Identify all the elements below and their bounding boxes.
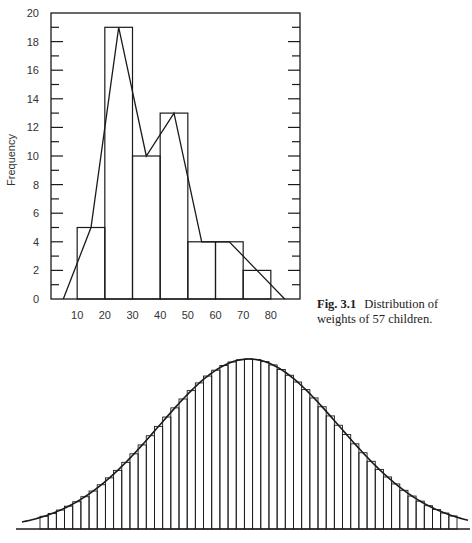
histogram-bar — [343, 435, 351, 529]
histogram-bar — [138, 445, 146, 529]
histogram-bar — [179, 399, 187, 529]
histogram-bar — [195, 383, 203, 529]
histogram-bar — [160, 113, 188, 299]
histogram-bar — [375, 469, 383, 529]
y-tick-label: 12 — [27, 121, 39, 133]
histogram-bar — [73, 502, 81, 529]
histogram-bar — [220, 365, 228, 529]
histogram-bar — [204, 376, 212, 529]
histogram-bar — [318, 407, 326, 529]
y-tick-label: 4 — [33, 236, 39, 248]
y-axis-ticks: 02468101214161820 — [27, 7, 300, 305]
caption-text-line2: weights of 57 children. — [317, 312, 432, 326]
y-axis-label: Frequency — [5, 134, 17, 186]
histogram-bar — [277, 370, 285, 529]
histogram-bar — [171, 408, 179, 529]
histogram-bar — [359, 453, 367, 529]
histogram-bar — [48, 513, 56, 529]
plot-border — [51, 13, 300, 299]
histogram-bar — [154, 426, 162, 529]
histogram-bar — [188, 242, 216, 299]
y-tick-label: 8 — [33, 179, 39, 191]
histogram-bar — [187, 391, 195, 529]
x-tick-label: 50 — [182, 309, 194, 321]
histogram-bar — [105, 478, 113, 529]
histogram-bar — [243, 270, 271, 299]
histogram-bar — [122, 462, 130, 529]
histogram-bar — [334, 425, 342, 529]
normal-curve-histogram-chart — [0, 330, 472, 543]
y-tick-label: 14 — [27, 93, 39, 105]
x-tick-label: 40 — [154, 309, 166, 321]
histogram-bar — [163, 417, 171, 529]
histogram-bar — [392, 484, 400, 529]
histogram-bar — [216, 242, 244, 299]
x-tick-label: 70 — [237, 309, 249, 321]
y-tick-label: 16 — [27, 64, 39, 76]
histogram-bar — [65, 506, 73, 529]
histogram-bar — [261, 362, 269, 529]
histogram-bar — [253, 360, 261, 529]
x-tick-label: 20 — [99, 309, 111, 321]
x-tick-label: 80 — [265, 309, 277, 321]
histogram-bar — [114, 470, 122, 529]
histogram-bar — [326, 416, 334, 529]
histogram-bar — [244, 359, 252, 529]
histogram-bar — [130, 454, 138, 529]
y-tick-label: 10 — [27, 150, 39, 162]
histogram-bar — [81, 497, 89, 529]
histogram-bar — [89, 491, 97, 529]
histogram-weights-chart: 02468101214161820 1020304050607080 Frequ… — [0, 0, 472, 330]
histogram-bar — [105, 27, 133, 299]
histogram-bar — [146, 436, 154, 529]
figure-caption: Fig. 3.1Distribution of weights of 57 ch… — [317, 297, 467, 327]
y-tick-label: 0 — [33, 293, 39, 305]
narrow-histogram-bars — [40, 359, 457, 529]
figure-number: Fig. 3.1 — [317, 297, 356, 311]
frequency-polygon-line — [63, 27, 284, 299]
histogram-bar — [424, 506, 432, 529]
histogram-bar — [302, 390, 310, 529]
y-tick-label: 6 — [33, 207, 39, 219]
histogram-bar — [441, 513, 449, 529]
histogram-bar — [285, 375, 293, 529]
histogram-bar — [212, 370, 220, 529]
histogram-bar — [133, 156, 161, 299]
histogram-bar — [40, 516, 48, 529]
x-tick-label: 10 — [71, 309, 83, 321]
x-tick-label: 30 — [126, 309, 138, 321]
histogram-bar — [449, 516, 457, 529]
histogram-bar — [400, 490, 408, 529]
histogram-bar — [236, 360, 244, 529]
y-tick-label: 18 — [27, 36, 39, 48]
histogram-bar — [310, 398, 318, 529]
histogram-bar — [383, 477, 391, 529]
x-axis-tick-labels: 1020304050607080 — [71, 309, 277, 321]
histogram-bar — [97, 485, 105, 529]
histogram-bar — [228, 362, 236, 529]
x-tick-label: 60 — [209, 309, 221, 321]
y-tick-label: 20 — [27, 7, 39, 19]
histogram-bar — [293, 382, 301, 529]
caption-text-line1: Distribution of — [364, 297, 438, 311]
histogram-bars — [77, 27, 271, 299]
histogram-bar — [367, 461, 375, 529]
histogram-bar — [351, 444, 359, 529]
y-tick-label: 2 — [33, 264, 39, 276]
histogram-bar — [269, 365, 277, 529]
plot-frame — [51, 13, 300, 299]
histogram-bar — [77, 228, 105, 300]
histogram-bar — [56, 510, 64, 529]
histogram-bar — [416, 501, 424, 529]
histogram-bar — [408, 496, 416, 529]
histogram-bar — [432, 510, 440, 529]
